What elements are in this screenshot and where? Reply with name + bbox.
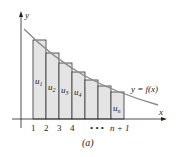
y-axis-arrow-icon [19, 11, 23, 17]
tick-2: 2 [44, 123, 49, 133]
rectangles [33, 40, 124, 119]
rect-6 [98, 86, 111, 119]
tick-4: 4 [70, 123, 75, 133]
curve-label: y = f(x) [130, 84, 158, 94]
tick-ellipsis: • • • [90, 123, 104, 133]
x-axis-arrow-icon [161, 117, 167, 121]
figure-caption: (a) [82, 137, 94, 149]
riemann-sum-diagram: y x y = f(x) u1 u2 u3 u4 un 1 2 3 4 • • … [0, 0, 179, 157]
x-ticks: 1 2 3 4 • • • n + 1 [31, 123, 130, 133]
tick-n-plus-1: n + 1 [110, 123, 130, 133]
rect-5 [85, 80, 98, 119]
tick-1: 1 [31, 123, 36, 133]
x-axis-label: x [158, 107, 163, 117]
y-axis-label: y [24, 10, 29, 20]
tick-3: 3 [57, 123, 62, 133]
